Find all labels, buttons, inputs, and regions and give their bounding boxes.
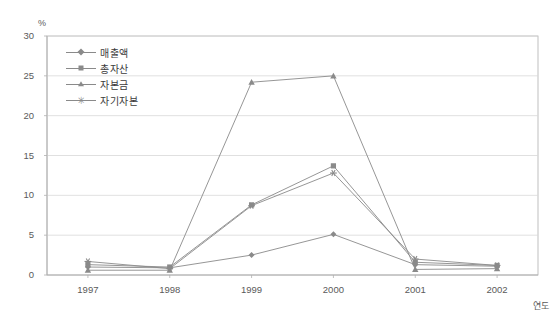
legend-item[interactable]: 매출액 [66, 44, 138, 60]
data-point-marker-square [331, 163, 336, 168]
legend-marker-triangle-icon [66, 78, 96, 90]
legend-label: 총자산 [100, 61, 129, 76]
legend-item[interactable]: 총자산 [66, 60, 138, 76]
legend-label: 매출액 [100, 45, 129, 60]
legend-item[interactable]: 자본금 [66, 76, 138, 92]
legend-marker-star-icon: ✳ [66, 94, 96, 106]
x-axis-unit-label: 연도 [533, 299, 549, 312]
legend-marker-square-icon [66, 62, 96, 74]
legend-label: 자기자본 [100, 93, 138, 108]
chart-container: % 051015202530 199719981999200020012002 … [0, 0, 555, 314]
chart-legend: 매출액총자산자본금✳자기자본 [66, 44, 138, 108]
legend-item[interactable]: ✳자기자본 [66, 92, 138, 108]
legend-label: 자본금 [100, 77, 129, 92]
data-point-marker-square [85, 262, 90, 267]
legend-marker-diamond-icon [66, 46, 96, 58]
